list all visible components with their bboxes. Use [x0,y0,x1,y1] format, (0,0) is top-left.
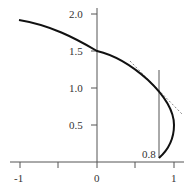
x-tick-label: 0 [94,172,100,184]
chart: 2.0 1.5 1.0 0.5 -1 0 1 0.8 [0,0,194,192]
y-tick-label: 1.0 [69,82,83,94]
y-tick-label: 1.5 [69,45,83,57]
annotation-label: 0.8 [142,148,156,160]
y-tick-label: 2.0 [69,8,83,20]
x-tick-label: 1 [171,172,177,184]
y-tick-label: 0.5 [69,119,83,131]
x-tick-label: -1 [14,172,23,184]
